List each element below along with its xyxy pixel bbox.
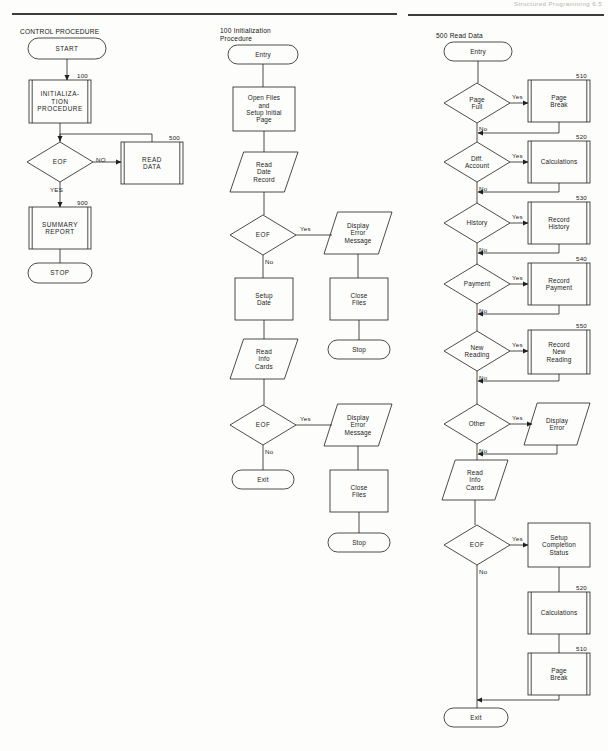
node-calculations-1 <box>528 141 590 183</box>
node-page-break-2 <box>528 653 590 695</box>
node-display-error <box>524 403 590 445</box>
node-eof-2 <box>230 215 296 255</box>
node-eof-3 <box>230 405 296 445</box>
node-new-reading <box>444 331 510 371</box>
node-init-proc <box>29 80 91 123</box>
node-stop-3 <box>328 533 390 552</box>
node-setup-date <box>235 278 293 320</box>
node-stop-1 <box>28 263 92 283</box>
node-close-files-1 <box>330 278 388 320</box>
edge-label-hist-no: No <box>479 246 487 253</box>
node-record-history <box>528 202 590 244</box>
node-page-break-1 <box>528 80 590 122</box>
node-history <box>444 203 510 243</box>
edge-label-eof4-yes: Yes <box>512 535 523 542</box>
edge-label-eof4-no: No <box>479 568 487 575</box>
node-read-data <box>121 142 183 184</box>
node-entry-2 <box>228 45 298 64</box>
node-page-full <box>444 83 510 123</box>
edge-label-newrd-yes: Yes <box>512 341 523 348</box>
column-title-read-data: 500 Read Data <box>436 32 483 40</box>
edge-label-other-yes: Yes <box>512 414 523 421</box>
init-proc-ref-number: 100 <box>77 72 88 79</box>
node-entry-3 <box>444 42 512 61</box>
record-history-ref-number: 530 <box>576 194 587 201</box>
edge-label-pay-no: No <box>479 307 487 314</box>
node-exit-3 <box>444 708 508 727</box>
edge-label-eof1-no: NO <box>96 156 106 163</box>
column-title-initialization-procedure: 100 Initialization Procedure <box>220 27 271 43</box>
node-payment <box>444 264 510 304</box>
node-other <box>444 404 510 444</box>
edge-label-newrd-no: No <box>479 374 487 381</box>
edge-label-eof2-yes: Yes <box>300 225 311 232</box>
flowchart-connectors <box>0 0 608 751</box>
node-disp-err-1 <box>324 212 392 254</box>
record-new-ref-number: 550 <box>576 322 587 329</box>
edge-label-pagefull-yes: Yes <box>512 93 523 100</box>
node-close-files-2 <box>330 470 388 512</box>
node-exit-2 <box>232 470 294 489</box>
page-break-1-ref-number: 510 <box>576 72 587 79</box>
node-open-files <box>233 87 295 131</box>
flowchart-sheet: Structured Programming 6.5 STARTINITIALI… <box>0 0 608 751</box>
node-calculations-2 <box>528 592 590 634</box>
edge-label-eof2-no: No <box>265 258 273 265</box>
calculations-1-ref-number: 520 <box>576 133 587 140</box>
node-setup-compl <box>528 523 590 567</box>
node-summary-rpt <box>29 207 91 249</box>
node-read-date <box>230 152 298 192</box>
node-record-payment <box>528 263 590 305</box>
edge-label-pay-yes: Yes <box>512 274 523 281</box>
node-read-info-3 <box>442 460 508 500</box>
edge-label-diff-no: No <box>479 185 487 192</box>
edge-label-pagefull-no: No <box>479 125 487 132</box>
calculations-2-ref-number: 520 <box>576 584 587 591</box>
edge-label-hist-yes: Yes <box>512 213 523 220</box>
node-diff-account <box>444 142 510 182</box>
page-break-2-ref-number: 510 <box>576 645 587 652</box>
edge-label-other-no: No <box>479 447 487 454</box>
node-read-info-2 <box>230 339 298 379</box>
node-disp-err-2 <box>324 404 392 446</box>
edge-label-eof3-no: No <box>265 448 273 455</box>
node-start <box>28 38 106 59</box>
node-stop-2 <box>328 340 390 359</box>
node-eof-1 <box>27 142 93 182</box>
node-record-new <box>528 330 590 374</box>
record-payment-ref-number: 540 <box>576 255 587 262</box>
node-eof-4 <box>444 525 510 565</box>
edge-label-diff-yes: Yes <box>512 152 523 159</box>
column-title-control-procedure: CONTROL PROCEDURE <box>20 28 99 36</box>
read-data-ref-number: 500 <box>169 134 180 141</box>
edge-label-eof1-yes: YES <box>50 186 63 193</box>
summary-rpt-ref-number: 900 <box>77 199 88 206</box>
edge-label-eof3-yes: Yes <box>300 415 311 422</box>
